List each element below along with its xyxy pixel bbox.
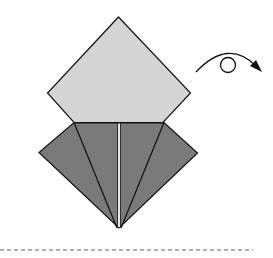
origami-diagram (0, 0, 273, 258)
turn-over-arc (196, 53, 256, 72)
center-strip (118, 123, 121, 228)
turn-over-icon (196, 53, 262, 72)
bottom-flaps (39, 123, 198, 229)
top-diamond (48, 17, 191, 123)
turn-over-loop (221, 58, 236, 73)
